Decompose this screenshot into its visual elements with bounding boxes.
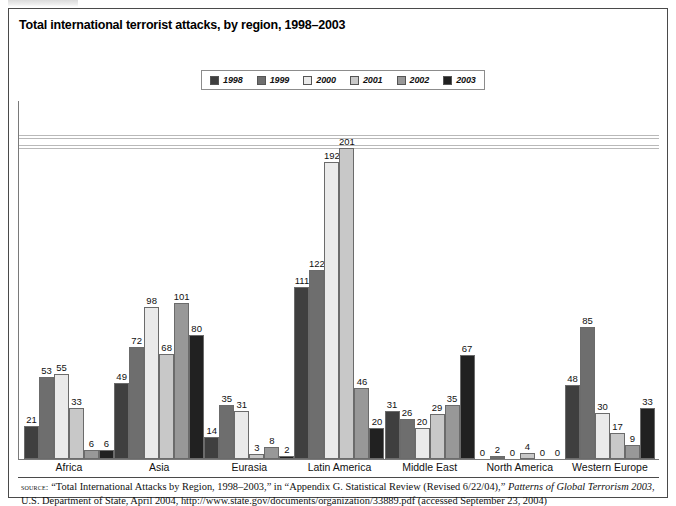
bar-rect	[354, 388, 369, 459]
bar-rect	[520, 453, 535, 459]
source-divider	[18, 477, 659, 478]
bar-value-label: 6	[104, 439, 109, 449]
bar-value-label: 53	[41, 366, 52, 376]
x-axis-label-middle-east: Middle East	[385, 461, 475, 477]
legend-item-label: 1999	[270, 75, 290, 85]
source-text-b: ,	[652, 481, 655, 492]
bar-middle-east-1998: 31	[385, 101, 400, 459]
bar-asia-1998: 49	[114, 101, 129, 459]
bar-value-label: 20	[372, 417, 383, 427]
legend-item-label: 1998	[223, 75, 243, 85]
x-axis-label-western-europe: Western Europe	[565, 461, 655, 477]
bar-latin-america-2002: 46	[354, 101, 369, 459]
bar-western-europe-2002: 9	[625, 101, 640, 459]
bar-rect	[400, 419, 415, 459]
bar-western-europe-2003: 33	[640, 101, 655, 459]
legend-swatch-icon	[443, 76, 452, 85]
bar-rect	[430, 414, 445, 459]
figure-label-artifact	[8, 0, 78, 7]
bar-group-north-america: 020400	[475, 101, 565, 459]
x-axis-label-latin-america: Latin America	[294, 461, 384, 477]
bar-value-label: 26	[402, 408, 413, 418]
bar-rect	[610, 433, 625, 459]
bar-value-label: 33	[71, 397, 82, 407]
bar-group-latin-america: 1111221922014620	[294, 101, 384, 459]
legend-item-1998: 1998	[210, 75, 243, 85]
legend-swatch-icon	[303, 76, 312, 85]
bar-asia-2003: 80	[189, 101, 204, 459]
bar-africa-2002: 6	[84, 101, 99, 459]
bar-rect	[54, 374, 69, 459]
legend-item-2000: 2000	[303, 75, 336, 85]
bar-value-label: 29	[432, 403, 443, 413]
source-note: source: “Total International Attacks by …	[21, 480, 659, 506]
bar-value-label: 72	[131, 336, 142, 346]
bar-middle-east-2000: 20	[415, 101, 430, 459]
bar-middle-east-2003: 67	[460, 101, 475, 459]
bar-north-america-2002: 0	[535, 101, 550, 459]
bar-western-europe-2001: 17	[610, 101, 625, 459]
bar-eurasia-2001: 3	[249, 101, 264, 459]
bar-africa-2003: 6	[99, 101, 114, 459]
legend-swatch-icon	[210, 76, 219, 85]
bar-rect	[324, 162, 339, 459]
bar-value-label: 31	[237, 400, 248, 410]
bar-eurasia-2000: 31	[234, 101, 249, 459]
bar-rect	[369, 428, 384, 459]
bar-value-label: 31	[387, 400, 398, 410]
bar-rect	[189, 335, 204, 459]
bar-value-label: 111	[295, 276, 309, 286]
bar-rect	[445, 405, 460, 459]
legend-item-label: 2000	[316, 75, 336, 85]
bar-rect	[580, 327, 595, 459]
bar-value-label: 6	[89, 439, 94, 449]
bar-eurasia-2003: 2	[279, 101, 294, 459]
source-publication-title: Patterns of Global Terrorism 2003	[508, 481, 652, 492]
bar-north-america-2001: 4	[520, 101, 535, 459]
bar-rect	[339, 148, 354, 459]
legend-item-2002: 2002	[397, 75, 430, 85]
bar-middle-east-1999: 26	[400, 101, 415, 459]
bar-value-label: 49	[116, 372, 127, 382]
legend-item-2003: 2003	[443, 75, 476, 85]
x-axis-line	[18, 459, 659, 460]
chart-legend: 199819992000200120022003	[201, 70, 485, 90]
bar-value-label: 0	[510, 448, 515, 458]
bar-north-america-2000: 0	[505, 101, 520, 459]
bar-rect	[595, 413, 610, 459]
bar-group-africa: 2153553366	[24, 101, 114, 459]
source-keyword: source:	[21, 482, 49, 492]
x-axis-label-asia: Asia	[114, 461, 204, 477]
bar-value-label: 4	[525, 442, 530, 452]
bar-latin-america-2003: 20	[369, 101, 384, 459]
bar-value-label: 20	[417, 417, 428, 427]
bar-value-label: 46	[357, 377, 368, 387]
bar-value-label: 201	[339, 137, 355, 147]
bar-eurasia-2002: 8	[264, 101, 279, 459]
legend-swatch-icon	[397, 76, 406, 85]
bar-value-label: 68	[161, 343, 172, 353]
bar-asia-2002: 101	[174, 101, 189, 459]
bar-value-label: 0	[555, 448, 560, 458]
bar-value-label: 2	[284, 445, 289, 455]
x-axis-label-africa: Africa	[24, 461, 114, 477]
bar-rect	[625, 445, 640, 459]
bar-north-america-1999: 2	[490, 101, 505, 459]
bar-rect	[144, 307, 159, 459]
bar-rect	[249, 454, 264, 459]
plot-area: 2153553366497298681018014353138211112219…	[18, 101, 659, 460]
bar-latin-america-1999: 122	[309, 101, 324, 459]
bar-value-label: 101	[174, 292, 190, 302]
bar-value-label: 0	[480, 448, 485, 458]
bar-rect	[264, 447, 279, 459]
bar-rect	[565, 385, 580, 459]
bar-rect	[219, 405, 234, 459]
bar-value-label: 14	[207, 426, 218, 436]
bar-north-america-2003: 0	[550, 101, 565, 459]
bar-groups: 2153553366497298681018014353138211112219…	[18, 101, 659, 459]
legend-item-label: 2002	[410, 75, 430, 85]
bar-africa-1998: 21	[24, 101, 39, 459]
bar-latin-america-2000: 192	[324, 101, 339, 459]
bar-value-label: 55	[56, 363, 67, 373]
bar-group-middle-east: 312620293567	[385, 101, 475, 459]
